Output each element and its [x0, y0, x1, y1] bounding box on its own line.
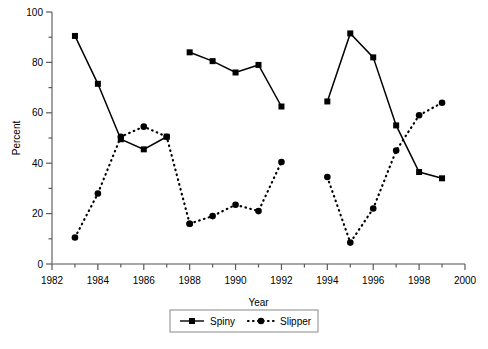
data-point-spiny [95, 81, 101, 87]
data-point-slipper [324, 174, 331, 181]
data-point-spiny [347, 30, 353, 36]
data-point-spiny [72, 33, 78, 39]
y-axis-tick-label: 20 [32, 208, 44, 219]
series-line-slipper [190, 162, 282, 224]
x-axis-title: Year [248, 297, 269, 308]
data-point-spiny [187, 49, 193, 55]
data-point-slipper [163, 133, 170, 140]
data-point-slipper [140, 123, 147, 130]
data-point-slipper [232, 201, 239, 208]
data-point-spiny [370, 54, 376, 60]
data-point-spiny [256, 62, 262, 68]
x-axis-tick-label: 2000 [454, 275, 477, 286]
data-point-spiny [210, 58, 216, 64]
data-point-slipper [95, 190, 102, 197]
data-point-slipper [393, 147, 400, 154]
x-axis-tick-label: 1992 [270, 275, 293, 286]
data-point-spiny [393, 122, 399, 128]
x-axis-tick-label: 1984 [87, 275, 110, 286]
y-axis-tick-label: 100 [26, 7, 43, 18]
x-axis-tick-label: 1986 [133, 275, 156, 286]
legend-label-spiny: Spiny [210, 316, 235, 327]
series-line-spiny [327, 33, 442, 178]
y-axis-tick-label: 60 [32, 107, 44, 118]
legend-marker-spiny [189, 318, 195, 324]
data-point-spiny [439, 175, 445, 181]
data-point-spiny [324, 98, 330, 104]
data-point-spiny [233, 69, 239, 75]
y-axis-title: Percent [11, 121, 22, 156]
legend-label-slipper: Slipper [280, 316, 312, 327]
data-point-spiny [278, 104, 284, 110]
data-point-slipper [255, 208, 262, 215]
data-point-spiny [416, 169, 422, 175]
data-point-slipper [72, 234, 79, 241]
data-point-slipper [439, 99, 446, 106]
data-point-slipper [209, 213, 216, 220]
series-line-spiny [75, 36, 167, 149]
series-line-spiny [190, 52, 282, 106]
x-axis-tick-label: 1994 [316, 275, 339, 286]
series-line-slipper [327, 103, 442, 243]
data-point-spiny [141, 146, 147, 152]
data-point-slipper [278, 159, 285, 166]
x-axis-tick-label: 1996 [362, 275, 385, 286]
y-axis-tick-label: 80 [32, 57, 44, 68]
series-line-slipper [75, 127, 190, 238]
x-axis-tick-label: 1982 [41, 275, 64, 286]
data-point-slipper [416, 112, 423, 119]
x-axis-tick-label: 1998 [408, 275, 431, 286]
chart-figure: 0204060801001982198419861988199019921994… [0, 0, 488, 349]
data-point-slipper [347, 239, 354, 246]
y-axis-tick-label: 40 [32, 158, 44, 169]
x-axis-tick-label: 1988 [179, 275, 202, 286]
data-point-slipper [118, 133, 125, 140]
data-point-slipper [370, 205, 377, 212]
line-chart: 0204060801001982198419861988199019921994… [0, 0, 488, 349]
x-axis-tick-label: 1990 [224, 275, 247, 286]
legend-marker-slipper [258, 318, 265, 325]
data-point-slipper [186, 220, 193, 227]
y-axis-tick-label: 0 [37, 259, 43, 270]
